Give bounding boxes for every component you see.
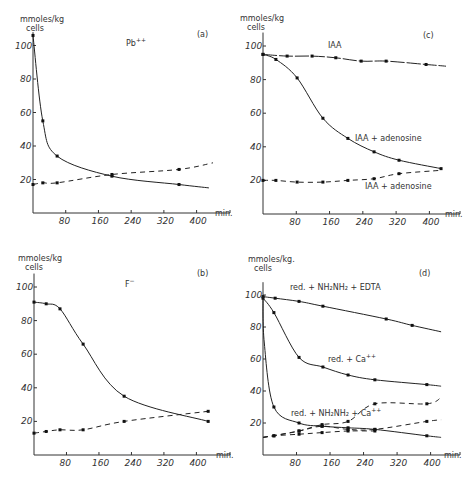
panel-title: IAA <box>328 41 342 50</box>
x-tick-label: 160 <box>91 216 108 226</box>
y-tick-label: 20 <box>250 175 262 185</box>
data-point <box>347 430 350 433</box>
data-point <box>32 183 35 186</box>
axes-b: 8016024032040020406080100 <box>16 274 230 468</box>
y-tick-label: 60 <box>250 108 262 118</box>
x-tick-label: 240 <box>356 217 373 227</box>
data-point <box>272 406 275 409</box>
x-tick-label: 400 <box>422 217 439 227</box>
data-point <box>33 301 36 304</box>
series-line <box>33 35 209 187</box>
y-tick-label: 20 <box>250 418 262 428</box>
x-axis-unit: min. <box>444 451 462 460</box>
annotation-edta: red. + NH₂NH₂ + EDTA <box>290 283 381 292</box>
data-point <box>110 173 113 176</box>
plot-area-c <box>262 53 447 184</box>
y-tick-label: 100 <box>245 41 262 51</box>
data-point <box>425 383 428 386</box>
y-tick-label: 60 <box>20 108 32 118</box>
data-point <box>82 428 85 431</box>
y-axis-label-line2: cells <box>26 24 44 33</box>
axes-c: 8016024032040020406080100 <box>245 33 460 227</box>
data-point <box>321 305 324 308</box>
x-axis-unit: min. <box>216 451 234 460</box>
data-point <box>32 34 35 37</box>
y-axis-label-line2: cells <box>25 263 43 272</box>
series-line <box>263 54 441 168</box>
data-point <box>296 76 299 79</box>
x-tick-label: 80 <box>59 216 71 226</box>
data-point <box>321 366 324 369</box>
series-line <box>33 163 213 185</box>
y-tick-label: 40 <box>21 383 33 393</box>
y-tick-label: 80 <box>20 74 32 84</box>
data-point <box>373 378 376 381</box>
x-tick-label: 320 <box>157 458 174 468</box>
panel-d: mmoles/kg. cells (d) red. + NH₂NH₂ + EDT… <box>245 255 462 468</box>
data-point <box>398 159 401 162</box>
panel-title: Pb++ <box>126 36 146 48</box>
data-point <box>274 58 277 61</box>
annotation-iaa-adenosine-solid: IAA + adenosine <box>355 134 422 143</box>
data-point <box>385 318 388 321</box>
panel-label: (b) <box>197 269 208 278</box>
data-point <box>347 420 350 423</box>
data-point <box>123 420 126 423</box>
y-axis-label-line2: cells <box>247 23 265 32</box>
x-tick-label: 80 <box>289 217 301 227</box>
data-point <box>298 430 301 433</box>
data-point <box>178 168 181 171</box>
y-tick-label: 100 <box>16 282 33 292</box>
data-point <box>321 181 324 184</box>
plot-area-a <box>32 34 214 188</box>
data-point <box>334 56 337 59</box>
data-point <box>373 177 376 180</box>
data-point <box>33 432 36 435</box>
x-tick-label: 240 <box>124 216 141 226</box>
y-tick-label: 60 <box>21 349 33 359</box>
panel-label: (c) <box>423 31 434 40</box>
annotation-hydrazine-ca: red. + NH₂NH₂ + Ca++ <box>291 406 381 418</box>
panel-label: (d) <box>419 269 430 278</box>
data-point <box>298 422 301 425</box>
series-line <box>263 420 441 438</box>
data-point <box>440 167 443 170</box>
x-tick-label: 160 <box>323 458 340 468</box>
data-point <box>360 60 363 63</box>
y-axis-label-line1: mmoles/kg <box>240 14 284 23</box>
x-tick-label: 240 <box>357 458 374 468</box>
y-tick-label: 40 <box>20 141 32 151</box>
y-tick-label: 80 <box>21 316 33 326</box>
x-tick-label: 160 <box>92 458 109 468</box>
x-tick-label: 400 <box>189 458 206 468</box>
data-point <box>41 119 44 122</box>
data-point <box>385 60 388 63</box>
annotation-iaa-adenosine-dashed: IAA + adenosine <box>365 182 432 191</box>
series-line <box>34 302 208 421</box>
data-point <box>298 300 301 303</box>
data-point <box>346 137 349 140</box>
data-point <box>425 434 428 437</box>
data-point <box>58 428 61 431</box>
data-point <box>123 395 126 398</box>
x-tick-label: 400 <box>424 458 441 468</box>
series-line <box>263 431 375 438</box>
series-line <box>263 298 441 386</box>
x-axis-unit: min. <box>445 210 463 219</box>
series-line <box>263 297 441 332</box>
panel-b: mmoles/kg cells (b) F− 80160240320400204… <box>16 254 234 468</box>
data-point <box>262 179 265 182</box>
data-point <box>58 307 61 310</box>
series-line <box>263 54 446 66</box>
figure-canvas: mmoles/kg cells (a) Pb++ 801602403204002… <box>0 0 475 484</box>
x-tick-label: 160 <box>323 217 340 227</box>
y-tick-label: 80 <box>250 322 262 332</box>
data-point <box>321 431 324 434</box>
data-point <box>398 172 401 175</box>
panel-c: mmoles/kg cells (c) IAA IAA + adenosine … <box>240 14 463 227</box>
y-tick-label: 40 <box>250 386 262 396</box>
data-point <box>178 183 181 186</box>
data-point <box>272 434 275 437</box>
data-point <box>286 55 289 58</box>
data-point <box>41 181 44 184</box>
